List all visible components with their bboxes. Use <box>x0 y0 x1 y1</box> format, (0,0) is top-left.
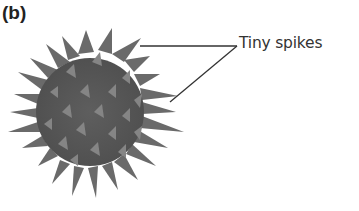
callout-label-tiny-spikes: Tiny spikes <box>239 34 322 52</box>
pollen-grain-illustration <box>0 0 359 211</box>
